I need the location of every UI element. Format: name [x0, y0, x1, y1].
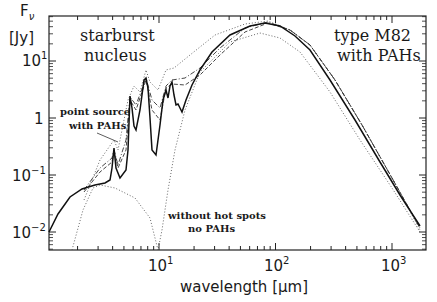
y-ticks	[49, 61, 426, 232]
ann-point-1: point source	[60, 106, 130, 117]
ann-starburst-2: nucleus	[84, 46, 147, 65]
x-tick-labels: 101 102 103	[148, 255, 406, 275]
ann-nohot-2: no PAHs	[188, 223, 235, 234]
y-axis-label: Fν	[20, 2, 35, 22]
ytick-10-1: 101	[22, 50, 47, 70]
ann-m82-2: with PAHs	[337, 46, 421, 65]
sed-chart: 101 1 10−1 10−2 101 102 103 Fν [Jy] wave…	[0, 0, 437, 302]
xtick-10-2: 102	[264, 255, 289, 275]
ann-nohot-1: without hot spots	[167, 210, 266, 221]
ann-point-2: with PAHs	[68, 120, 127, 131]
xtick-10-1: 101	[148, 255, 173, 275]
ytick-1: 1	[34, 110, 44, 128]
x-axis-label: wavelength [μm]	[180, 278, 308, 296]
ytick-10-m1: 10−1	[12, 165, 46, 185]
ann-m82-1: type M82	[334, 26, 411, 45]
y-tick-labels: 101 1 10−1 10−2	[12, 50, 47, 242]
y-axis-unit: [Jy]	[9, 29, 34, 47]
ytick-10-m2: 10−2	[12, 222, 46, 242]
ann-starburst-1: starburst	[80, 26, 155, 45]
annotations: starburst nucleus type M82 with PAHs poi…	[60, 26, 421, 234]
point-source-pointer	[97, 133, 118, 142]
xtick-10-3: 103	[381, 255, 406, 275]
